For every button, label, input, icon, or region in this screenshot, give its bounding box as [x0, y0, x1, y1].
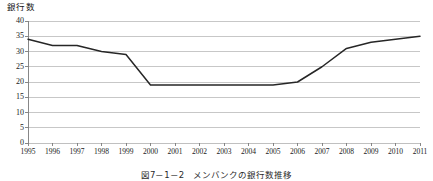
y-axis-tick-label: 15: [16, 93, 24, 101]
y-axis-title: 銀行数: [7, 2, 35, 12]
x-axis-tick-label: 2003: [217, 147, 232, 156]
plot-area: [28, 21, 420, 143]
x-axis-tick-label: 2004: [241, 147, 256, 156]
y-axis-tick-label: 25: [16, 63, 24, 71]
x-axis-tick-label-group: 1995199619971998199920002001200220032004…: [28, 147, 420, 159]
x-axis-tick-label: 2008: [339, 147, 354, 156]
x-axis-tick-label: 1996: [45, 147, 60, 156]
x-axis-tick-label: 1995: [21, 147, 36, 156]
y-axis-tick-label: 10: [16, 109, 24, 117]
y-axis-tick-label: 0: [20, 139, 24, 147]
y-axis-tick-label: 5: [20, 124, 24, 132]
y-axis-tick-label: 40: [16, 17, 24, 25]
y-axis-tick-label: 20: [16, 78, 24, 86]
x-axis-tick-label: 2000: [143, 147, 158, 156]
x-axis-tick-label: 2007: [315, 147, 330, 156]
x-axis-tick-label: 1998: [94, 147, 109, 156]
x-axis-tick-label: 2001: [168, 147, 183, 156]
x-axis-tick-label: 2010: [388, 147, 403, 156]
x-axis-tick-label: 2002: [192, 147, 207, 156]
figure-caption: 図7－1－2 メンバンクの銀行数推移: [0, 170, 433, 181]
x-axis-tick-label: 1997: [70, 147, 85, 156]
figure-container: 銀行数 0510152025303540 1995199619971998199…: [0, 0, 433, 181]
data-line-bank-count: [28, 36, 420, 85]
y-axis-tick-label: 30: [16, 48, 24, 56]
x-axis-tick-label: 2009: [364, 147, 379, 156]
x-axis-tick-label: 2011: [413, 147, 428, 156]
x-axis-tick-label: 2005: [266, 147, 281, 156]
y-axis-tick-label-group: 0510152025303540: [0, 21, 24, 143]
data-series-layer: [28, 21, 420, 143]
x-axis-tick-label: 2006: [290, 147, 305, 156]
y-axis-tick-label: 35: [16, 32, 24, 40]
x-axis-tick-label: 1999: [119, 147, 134, 156]
